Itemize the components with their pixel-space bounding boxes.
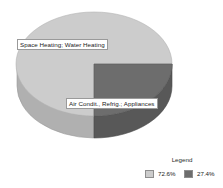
chart-legend: Legend 72.6% 27.4%: [141, 156, 223, 186]
legend-swatch-1-icon: [184, 170, 193, 178]
legend-title: Legend: [141, 156, 223, 164]
pie-slice-label-0: Space Heating; Water Heating: [17, 39, 108, 50]
legend-entries-row: 72.6% 27.4%: [141, 169, 223, 181]
legend-swatch-0-icon: [145, 170, 154, 178]
pie-chart-figure: Space Heating; Water Heating Air Condit.…: [0, 0, 223, 188]
pie-slice-label-1: Air Condit., Refrig.; Appliances: [66, 98, 158, 109]
legend-value-0: 72.6%: [158, 169, 176, 179]
legend-value-1: 27.4%: [197, 169, 215, 179]
